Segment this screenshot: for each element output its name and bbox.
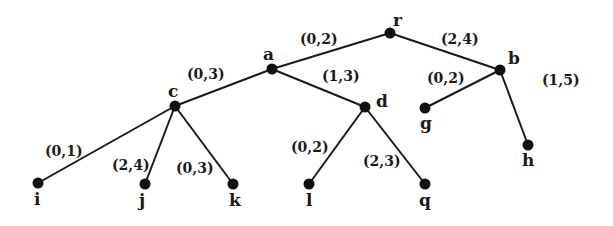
node-g xyxy=(420,103,431,114)
nodes-group xyxy=(33,28,534,190)
node-label-i: i xyxy=(34,189,41,209)
node-label-d: d xyxy=(376,91,388,111)
edge-label-c-i: (0,1) xyxy=(45,143,83,159)
node-b xyxy=(495,65,506,76)
edge-label-b-h: (1,5) xyxy=(542,72,580,88)
node-label-k: k xyxy=(229,190,242,210)
edge-label-d-l: (0,2) xyxy=(291,139,329,155)
node-label-g: g xyxy=(420,113,432,133)
node-a xyxy=(267,64,278,75)
node-label-l: l xyxy=(306,190,313,210)
node-l xyxy=(304,179,315,190)
edge-label-c-j: (2,4) xyxy=(112,157,150,173)
edge-label-b-g: (0,2) xyxy=(427,70,465,86)
node-q xyxy=(420,179,431,190)
edge-label-r-a: (0,2) xyxy=(300,31,338,47)
edge-label-r-b: (2,4) xyxy=(441,31,479,47)
edge-label-a-d: (1,3) xyxy=(322,68,360,84)
node-label-b: b xyxy=(508,48,520,68)
node-h xyxy=(523,140,534,151)
node-label-h: h xyxy=(522,150,534,170)
node-d xyxy=(360,102,371,113)
edge-b-h xyxy=(500,70,528,145)
edge-label-c-k: (0,3) xyxy=(176,160,214,176)
node-label-c: c xyxy=(168,81,178,101)
node-label-q: q xyxy=(419,190,431,210)
tree-diagram: (0,2)(2,4)(0,3)(1,3)(0,2)(1,5)(0,1)(2,4)… xyxy=(0,0,613,226)
edge-d-q xyxy=(365,107,425,184)
node-i xyxy=(33,178,44,189)
node-j xyxy=(140,179,151,190)
edge-labels-group: (0,2)(2,4)(0,3)(1,3)(0,2)(1,5)(0,1)(2,4)… xyxy=(45,31,580,176)
node-k xyxy=(228,179,239,190)
node-label-a: a xyxy=(263,44,274,64)
node-label-j: j xyxy=(137,190,145,210)
node-c xyxy=(170,101,181,112)
edge-label-d-q: (2,3) xyxy=(363,153,401,169)
edge-label-a-c: (0,3) xyxy=(187,66,225,82)
node-label-r: r xyxy=(393,10,403,30)
